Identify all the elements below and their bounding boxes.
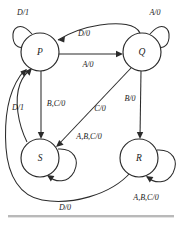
edge-label-r-to-p: D/0: [58, 203, 71, 212]
edge-p-to-s-arrowhead: [38, 132, 44, 139]
edge-p-to-q-arrowhead: [116, 51, 123, 57]
edge-label-q-to-r: B/0: [124, 94, 135, 103]
edge-label-p-to-q: A/0: [81, 60, 93, 69]
edge-label-s-self: A,B,C/0: [75, 132, 101, 141]
edge-label-q-self: A/0: [148, 8, 160, 17]
edge-s-to-p: D/1: [11, 68, 32, 142]
edge-label-p-to-s: B,C/0: [47, 99, 65, 108]
edge-r-to-p-arrowhead: [20, 69, 27, 77]
state-label-s: S: [38, 153, 43, 163]
edge-p-to-q: A/0: [59, 51, 123, 69]
state-node-r[interactable]: R: [120, 139, 158, 177]
state-label-p: P: [36, 47, 43, 57]
state-node-q[interactable]: Q: [123, 33, 161, 71]
state-node-p[interactable]: P: [21, 33, 59, 71]
edge-label-s-to-p: D/1: [11, 103, 24, 112]
edge-label-r-self: A,B,C/0: [132, 193, 158, 202]
edge-q-to-r: B/0: [124, 71, 143, 139]
state-diagram-figure: D/0 A/0 B,C/0 C/0 B/0: [0, 0, 182, 226]
self-loop-r-arrowhead: [146, 176, 153, 182]
edge-label-p-self: D/1: [16, 8, 29, 17]
state-label-q: Q: [139, 47, 146, 57]
edge-q-to-p-path: [58, 24, 140, 40]
edge-label-q-to-p: D/0: [77, 29, 90, 38]
state-node-s[interactable]: S: [21, 139, 59, 177]
bottom-divider: [8, 215, 174, 217]
edge-q-to-r-path: [140, 71, 141, 137]
edge-p-to-s: B,C/0: [38, 71, 65, 139]
state-label-r: R: [135, 153, 142, 163]
edge-r-to-p: D/0: [6, 69, 131, 212]
edge-label-q-to-s: C/0: [94, 104, 106, 113]
self-loop-s-arrowhead: [47, 175, 54, 181]
edge-q-to-s-arrowhead: [56, 140, 64, 147]
fsm-canvas: D/0 A/0 B,C/0 C/0 B/0: [0, 0, 182, 226]
edge-q-to-r-arrowhead: [137, 132, 143, 139]
